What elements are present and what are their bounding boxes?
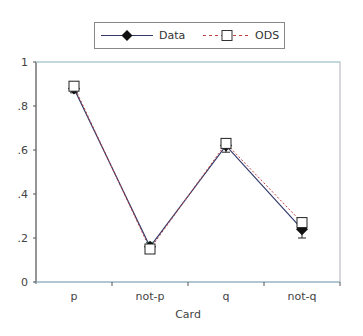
ods-point-marker — [69, 81, 79, 91]
legend-label-data: Data — [159, 29, 185, 42]
series-group — [68, 81, 308, 254]
x-tick-label: not-p — [136, 290, 165, 303]
x-tick-label: q — [223, 290, 230, 303]
plot-area — [36, 62, 340, 282]
series-line-ods — [74, 86, 302, 249]
ods-point-marker — [221, 138, 231, 148]
ods-point-marker — [145, 244, 155, 254]
legend: Data ODS — [94, 22, 285, 49]
y-tick-label: .4 — [18, 188, 29, 201]
chart: 0.2.4.6.81 pnot-pqnot-q Card — [0, 0, 363, 336]
y-tick-label: .8 — [18, 100, 29, 113]
ods-point-marker — [297, 218, 307, 228]
y-tick-label: 1 — [21, 56, 28, 69]
y-ticks: 0.2.4.6.81 — [18, 56, 37, 289]
series-line-data — [74, 88, 302, 246]
x-axis-title: Card — [175, 308, 201, 321]
x-ticks: pnot-pqnot-q — [71, 282, 340, 303]
legend-label-ods: ODS — [255, 29, 279, 42]
y-tick-label: .2 — [18, 232, 29, 245]
y-tick-label: 0 — [21, 276, 28, 289]
x-tick-label: p — [71, 290, 78, 303]
square-marker-icon — [222, 31, 232, 41]
x-tick-label: not-q — [288, 290, 317, 303]
y-tick-label: .6 — [18, 144, 29, 157]
diamond-marker-icon — [122, 30, 133, 41]
